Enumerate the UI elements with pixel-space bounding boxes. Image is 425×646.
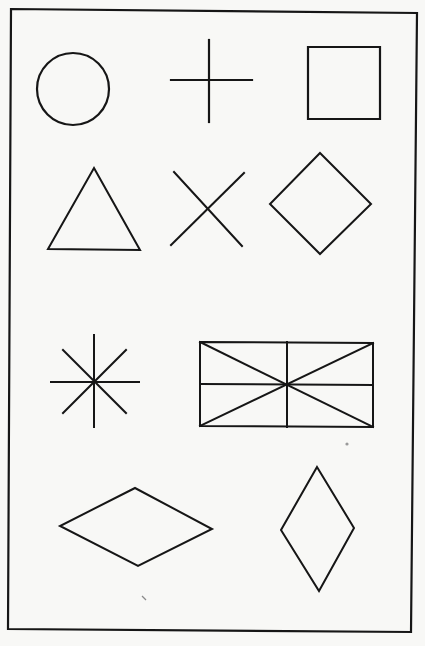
scan-dot bbox=[345, 442, 348, 445]
paper-background bbox=[0, 0, 425, 646]
shapes-figure bbox=[0, 0, 425, 646]
shape-divided-rectangle bbox=[200, 342, 373, 427]
